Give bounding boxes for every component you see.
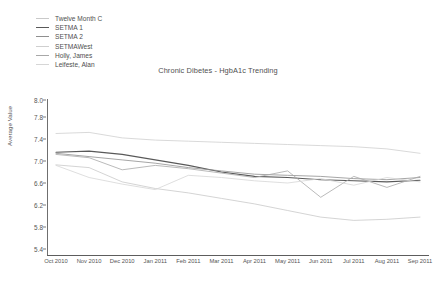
series-line-4 [56,154,420,197]
chart-container: Twelve Month CSETMA 1SETMA 2SETMAWestHol… [0,0,448,292]
series-line-3 [56,132,420,153]
series-line-0 [56,165,420,221]
series-line-5 [56,165,420,189]
series-line-2 [56,153,420,179]
series-layer [0,0,448,292]
